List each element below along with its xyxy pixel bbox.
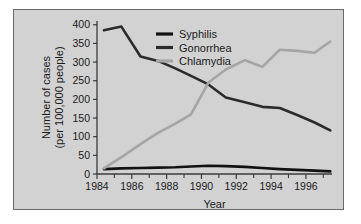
y-tick-label: 300: [72, 56, 90, 68]
legend-label-gonorrhea: Gonorrhea: [179, 42, 232, 54]
x-tick-label: 1984: [85, 180, 109, 192]
y-tick-label: 200: [72, 93, 90, 105]
y-tick-label: 100: [72, 130, 90, 142]
y-tick-label: 0: [84, 168, 90, 180]
y-axis-title-line2: (per 100,000 people): [53, 46, 65, 148]
chart-legend: SyphilisGonorrheaChlamydia: [156, 28, 232, 67]
line-chart: 0501001502002503003504001984198619881990…: [14, 10, 345, 211]
y-axis-title-line1: Number of cases: [40, 55, 52, 139]
y-tick-label: 250: [72, 74, 90, 86]
y-tick-label: 150: [72, 112, 90, 124]
x-tick-label: 1988: [155, 180, 179, 192]
x-axis-title: Year: [203, 198, 226, 210]
x-tick-label: 1990: [190, 180, 214, 192]
x-tick-label: 1986: [120, 180, 144, 192]
y-tick-label: 350: [72, 37, 90, 49]
chart-figure: 0501001502002503003504001984198619881990…: [13, 9, 344, 210]
y-tick-label: 50: [78, 149, 90, 161]
x-tick-label: 1996: [294, 180, 318, 192]
legend-label-syphilis: Syphilis: [179, 28, 217, 40]
x-tick-label: 1992: [225, 180, 249, 192]
legend-label-chlamydia: Chlamydia: [179, 55, 232, 67]
x-tick-label: 1994: [259, 180, 283, 192]
y-tick-label: 400: [72, 18, 90, 30]
series-line-syphilis: [104, 166, 330, 172]
